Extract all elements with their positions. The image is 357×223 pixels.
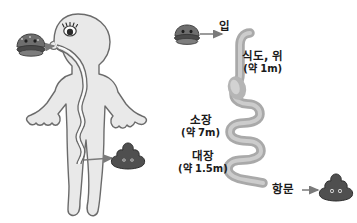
- label-mouth-main: 입: [219, 20, 230, 33]
- label-esophagus-stomach: 식도, 위 (약 1m): [242, 50, 283, 75]
- hamburger-icon-right: [175, 25, 200, 44]
- digestive-system-figure: 입 식도, 위 (약 1m) 소장 (약 7m) 대장 (약 1.5m) 항문: [0, 0, 357, 223]
- hamburger-icon: [17, 34, 45, 56]
- poop-icon: [111, 143, 144, 169]
- pupil-icon: [67, 29, 73, 36]
- label-small-intestine: 소장 (약 7m): [181, 114, 220, 139]
- label-esophagus-stomach-sub: (약 1m): [243, 63, 282, 75]
- label-large-intestine-main: 대장: [192, 150, 214, 163]
- label-small-intestine-main: 소장: [190, 114, 212, 127]
- label-mouth: 입: [219, 20, 230, 33]
- label-anus: 항문: [272, 183, 294, 196]
- poop-icon-right: [319, 174, 352, 201]
- figure-canvas: [0, 0, 357, 223]
- arrow-into-mouth: [45, 46, 54, 47]
- label-large-intestine-sub: (약 1.5m): [178, 163, 228, 175]
- label-large-intestine: 대장 (약 1.5m): [178, 150, 228, 175]
- label-esophagus-stomach-main: 식도, 위: [242, 50, 283, 63]
- human-body-group: [17, 14, 146, 216]
- label-small-intestine-sub: (약 7m): [181, 127, 220, 139]
- label-anus-main: 항문: [272, 183, 294, 196]
